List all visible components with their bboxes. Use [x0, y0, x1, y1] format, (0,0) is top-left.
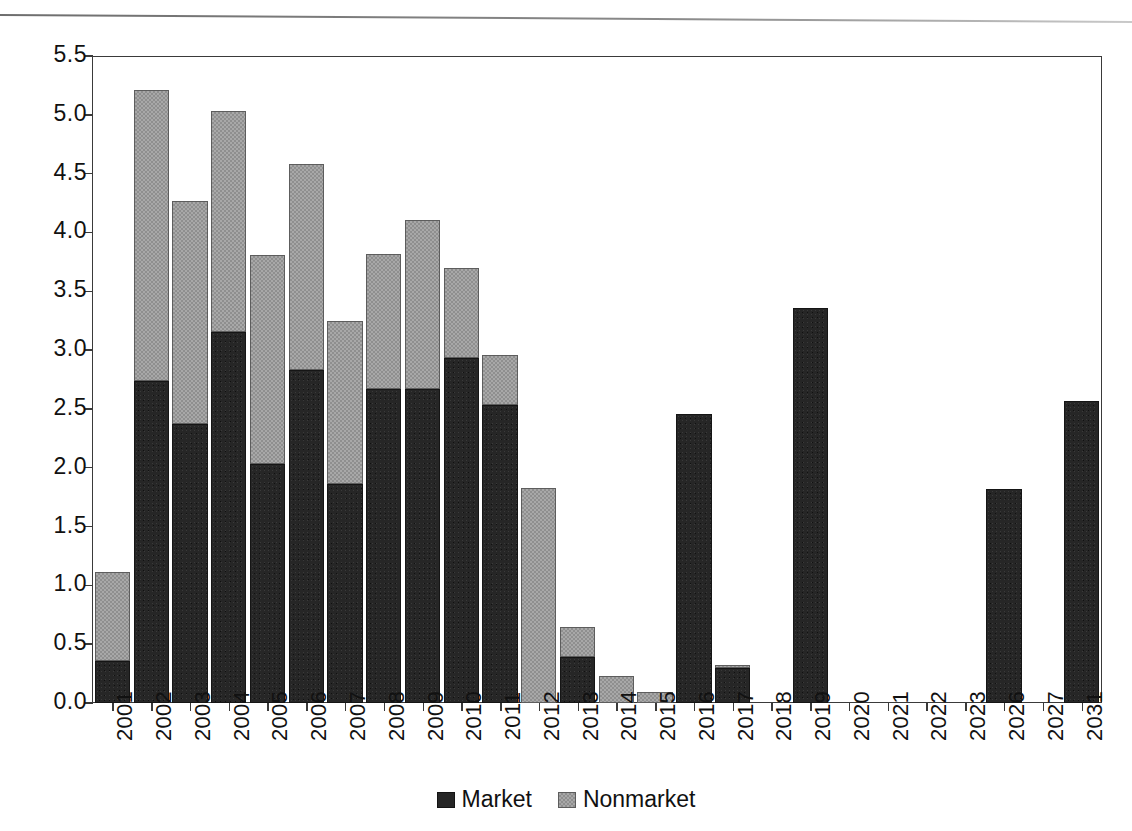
x-axis-label-cell: 2009 — [403, 712, 442, 782]
y-axis-tick-label: 1.5 — [17, 512, 87, 539]
bar-slot[interactable] — [674, 57, 713, 703]
x-axis-tick-label: 2031 — [1082, 691, 1108, 741]
stacked-bar[interactable] — [676, 414, 711, 703]
x-axis-label-cell: 2011 — [481, 712, 520, 782]
stacked-bar[interactable] — [986, 489, 1021, 703]
bar-slot[interactable] — [287, 57, 326, 703]
bar-slot[interactable] — [481, 57, 520, 703]
bar-segment-market — [250, 464, 285, 703]
stacked-bar-chart: 0.00.51.01.52.02.53.03.54.04.55.05.5 200… — [0, 0, 1132, 831]
bar-slot[interactable] — [1062, 57, 1101, 703]
stacked-bar[interactable] — [211, 111, 246, 703]
y-axis-tick-label: 2.0 — [17, 453, 87, 480]
bar-segment-nonmarket — [134, 90, 169, 381]
stacked-bar[interactable] — [1064, 401, 1099, 703]
bar-segment-market — [986, 489, 1021, 703]
bar-segment-market — [1064, 401, 1099, 703]
stacked-bar[interactable] — [172, 201, 207, 703]
x-axis-label-cell: 2004 — [209, 712, 248, 782]
stacked-bar[interactable] — [793, 308, 828, 703]
x-axis-label-cell: 2001 — [93, 712, 132, 782]
bar-slot[interactable] — [93, 57, 132, 703]
bar-segment-nonmarket — [172, 201, 207, 425]
bar-slot[interactable] — [171, 57, 210, 703]
bar-segment-nonmarket — [366, 254, 401, 389]
bar-slot[interactable] — [713, 57, 752, 703]
bar-slot[interactable] — [597, 57, 636, 703]
legend-swatch-market-icon — [437, 792, 455, 808]
legend-item-nonmarket[interactable]: Nonmarket — [558, 786, 695, 813]
bar-segment-market — [327, 484, 362, 703]
bar-slot[interactable] — [1023, 57, 1062, 703]
y-axis-tick-label: 4.5 — [17, 159, 87, 186]
stacked-bar[interactable] — [250, 255, 285, 703]
bar-segment-nonmarket — [95, 572, 130, 660]
bar-segment-market — [405, 389, 440, 703]
stacked-bar[interactable] — [327, 321, 362, 703]
legend-swatch-nonmarket-icon — [558, 792, 576, 808]
x-axis-label-cell: 2015 — [636, 712, 675, 782]
x-axis-label-cell: 2007 — [326, 712, 365, 782]
stacked-bar[interactable] — [289, 164, 324, 703]
bar-segment-market — [676, 414, 711, 703]
bar-segment-market — [134, 381, 169, 703]
x-axis-label-cell: 2020 — [830, 712, 869, 782]
stacked-bar[interactable] — [405, 220, 440, 703]
bar-slot[interactable] — [985, 57, 1024, 703]
stacked-bar[interactable] — [444, 268, 479, 703]
stacked-bar[interactable] — [95, 572, 130, 703]
x-axis-label-cell: 2021 — [868, 712, 907, 782]
x-axis-labels: 2001200220032004200520062007200820092010… — [93, 712, 1101, 782]
y-axis-tick-label: 5.0 — [17, 100, 87, 127]
x-axis-label-cell: 2027 — [1023, 712, 1062, 782]
x-axis-label-cell: 2017 — [713, 712, 752, 782]
x-axis-label-cell: 2002 — [132, 712, 171, 782]
bar-slot[interactable] — [403, 57, 442, 703]
stacked-bar[interactable] — [482, 355, 517, 703]
page-rule — [0, 14, 1132, 23]
bar-slot[interactable] — [946, 57, 985, 703]
bar-slot[interactable] — [752, 57, 791, 703]
bar-slot[interactable] — [558, 57, 597, 703]
stacked-bar[interactable] — [134, 90, 169, 703]
chart-legend: Market Nonmarket — [0, 786, 1132, 813]
x-axis-label-cell: 2005 — [248, 712, 287, 782]
bar-slot[interactable] — [830, 57, 869, 703]
legend-label-market: Market — [462, 786, 532, 813]
stacked-bar[interactable] — [521, 488, 556, 703]
bar-slot[interactable] — [132, 57, 171, 703]
x-axis-label-cell: 2016 — [674, 712, 713, 782]
bar-segment-market — [793, 308, 828, 703]
bar-slot[interactable] — [519, 57, 558, 703]
bar-slot[interactable] — [791, 57, 830, 703]
y-axis-tick-label: 3.0 — [17, 335, 87, 362]
bar-slot[interactable] — [907, 57, 946, 703]
stacked-bar[interactable] — [366, 254, 401, 703]
bar-segment-nonmarket — [560, 627, 595, 658]
x-axis-label-cell: 2031 — [1062, 712, 1101, 782]
bar-series-container — [93, 57, 1101, 703]
bar-slot[interactable] — [209, 57, 248, 703]
x-axis-label-cell: 2008 — [364, 712, 403, 782]
bar-segment-nonmarket — [521, 488, 556, 703]
x-axis-label-cell: 2013 — [558, 712, 597, 782]
bar-segment-market — [444, 358, 479, 703]
bar-slot[interactable] — [868, 57, 907, 703]
bar-segment-market — [289, 370, 324, 703]
bar-slot[interactable] — [636, 57, 675, 703]
bar-segment-market — [482, 405, 517, 703]
y-axis-tick-label: 2.5 — [17, 394, 87, 421]
y-axis-tick-label: 0.0 — [17, 688, 87, 715]
bar-segment-nonmarket — [250, 255, 285, 464]
bar-segment-nonmarket — [405, 220, 440, 389]
x-axis-label-cell: 2023 — [946, 712, 985, 782]
bar-slot[interactable] — [364, 57, 403, 703]
legend-item-market[interactable]: Market — [437, 786, 532, 813]
bar-segment-nonmarket — [327, 321, 362, 485]
bar-slot[interactable] — [326, 57, 365, 703]
bar-segment-market — [366, 389, 401, 703]
bar-slot[interactable] — [442, 57, 481, 703]
bar-slot[interactable] — [248, 57, 287, 703]
bar-segment-nonmarket — [444, 268, 479, 359]
x-axis-label-cell: 2003 — [171, 712, 210, 782]
